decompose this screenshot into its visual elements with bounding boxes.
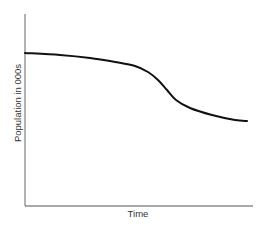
y-axis-label: Population in 000s: [12, 64, 23, 142]
population-line: [25, 53, 247, 121]
line-chart: [0, 0, 264, 226]
x-axis-label: Time: [128, 208, 149, 219]
